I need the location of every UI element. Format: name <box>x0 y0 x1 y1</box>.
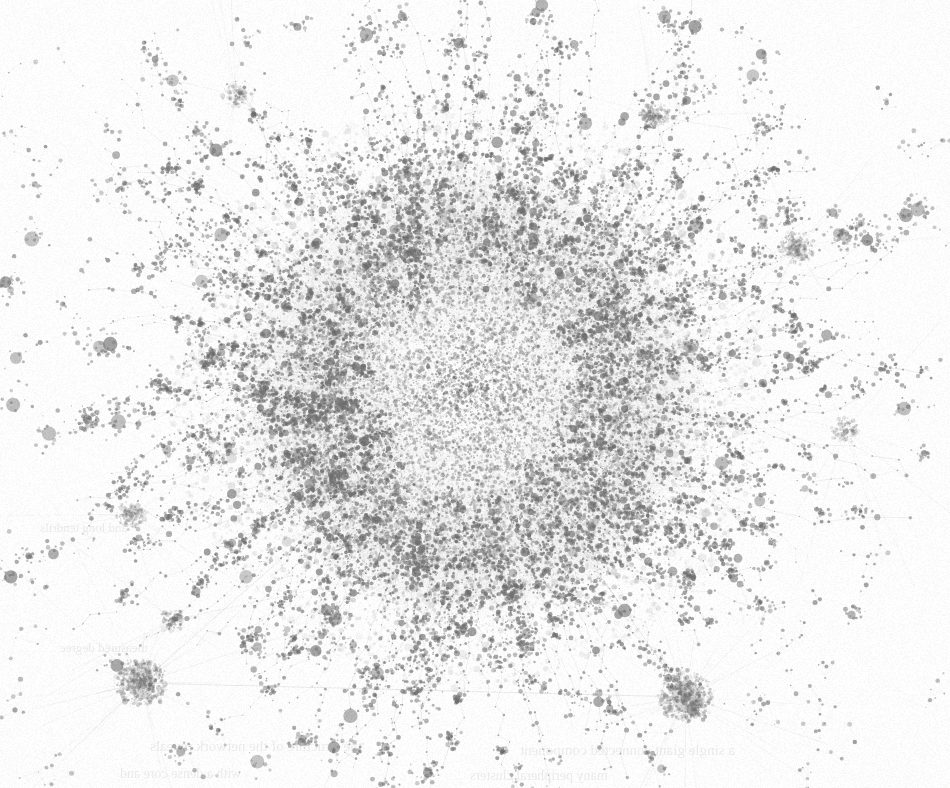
network-graph-figure: the structure of the network revealsa si… <box>0 0 950 788</box>
network-graph-canvas <box>0 0 950 788</box>
